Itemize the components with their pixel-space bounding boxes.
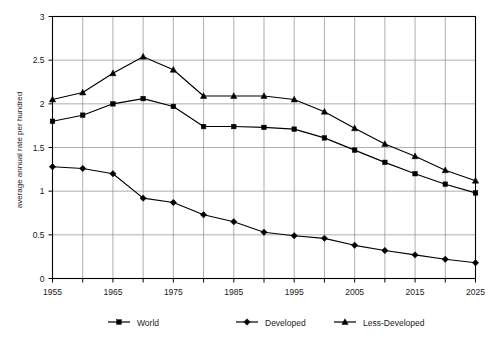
data-point-marker	[141, 96, 146, 101]
x-tick-label: 2005	[345, 287, 364, 297]
x-tick-label: 2025	[466, 287, 485, 297]
y-tick-label: 2	[40, 99, 45, 109]
data-point-marker	[231, 124, 236, 129]
y-tick-label: 0.5	[33, 230, 45, 240]
x-tick-label: 1965	[103, 287, 122, 297]
legend-label: World	[137, 318, 159, 328]
x-tick-label: 1975	[164, 287, 183, 297]
data-point-marker	[50, 119, 55, 124]
chart-legend: WorldDevelopedLess-Developed	[108, 318, 425, 328]
data-point-marker	[322, 136, 327, 141]
data-point-marker	[171, 104, 176, 109]
x-tick-label: 1995	[285, 287, 304, 297]
y-tick-label: 2.5	[33, 55, 45, 65]
data-point-marker	[80, 113, 85, 118]
legend-marker-square	[117, 320, 122, 325]
data-point-marker	[292, 127, 297, 132]
x-tick-label: 2015	[406, 287, 425, 297]
legend-label: Developed	[265, 318, 306, 328]
y-tick-label: 0	[40, 274, 45, 284]
x-tick-label: 1955	[43, 287, 62, 297]
data-point-marker	[262, 125, 267, 130]
y-axis-title: average annual rate per hundred	[15, 92, 24, 209]
line-chart: 00.511.522.53 19551965197519851995200520…	[0, 0, 493, 340]
legend-label: Less-Developed	[363, 318, 425, 328]
data-point-marker	[111, 102, 116, 107]
y-tick-label: 1.5	[33, 143, 45, 153]
y-tick-label: 1	[40, 186, 45, 196]
data-point-marker	[383, 160, 388, 165]
data-point-marker	[473, 191, 478, 196]
y-tick-label: 3	[40, 12, 45, 22]
data-point-marker	[352, 148, 357, 153]
data-point-marker	[413, 171, 418, 176]
data-point-marker	[443, 182, 448, 187]
data-point-marker	[201, 124, 206, 129]
x-tick-label: 1985	[224, 287, 243, 297]
